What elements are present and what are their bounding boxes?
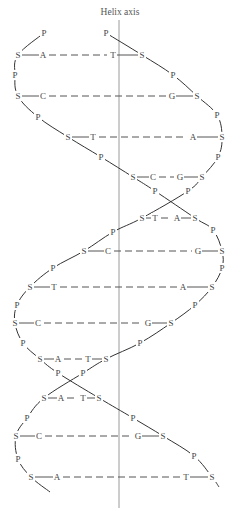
svg-text:P: P bbox=[14, 300, 19, 310]
sugar-label: S bbox=[218, 246, 226, 256]
guanine-label: G bbox=[176, 172, 184, 182]
svg-text:P: P bbox=[20, 338, 25, 348]
svg-text:P: P bbox=[103, 28, 108, 38]
svg-text:S: S bbox=[209, 472, 214, 482]
phosphate-label: P bbox=[13, 300, 21, 310]
svg-text:P: P bbox=[185, 186, 190, 196]
phosphate-label: P bbox=[214, 152, 222, 162]
svg-text:S: S bbox=[160, 431, 165, 441]
phosphate-label: P bbox=[213, 110, 221, 120]
phosphate-label: P bbox=[191, 300, 199, 310]
svg-text:C: C bbox=[150, 172, 156, 182]
sugar-label: S bbox=[95, 393, 103, 403]
svg-text:S: S bbox=[139, 50, 144, 60]
svg-text:P: P bbox=[170, 70, 175, 80]
thymine-label: T bbox=[79, 393, 87, 403]
sugar-label: S bbox=[218, 132, 226, 142]
svg-text:A: A bbox=[54, 472, 61, 482]
svg-text:A: A bbox=[40, 50, 47, 60]
sugar-label: S bbox=[208, 472, 216, 482]
adenine-label: A bbox=[53, 472, 61, 482]
svg-text:T: T bbox=[183, 472, 189, 482]
sugar-label: S bbox=[193, 91, 201, 101]
thymine-label: T bbox=[84, 354, 92, 364]
phosphate-label: P bbox=[97, 152, 105, 162]
thymine-label: T bbox=[151, 213, 159, 223]
svg-text:S: S bbox=[103, 354, 108, 364]
svg-text:P: P bbox=[152, 186, 157, 196]
svg-text:S: S bbox=[209, 282, 214, 292]
cytosine-label: C bbox=[149, 172, 157, 182]
phosphate-label: P bbox=[11, 70, 19, 80]
guanine-label: G bbox=[144, 318, 152, 328]
guanine-label: G bbox=[168, 91, 176, 101]
svg-text:T: T bbox=[85, 354, 91, 364]
svg-text:S: S bbox=[12, 318, 17, 328]
backbone-strand-2 bbox=[14, 33, 222, 487]
sugar-label: S bbox=[40, 393, 48, 403]
svg-text:A: A bbox=[174, 213, 181, 223]
cytosine-label: C bbox=[104, 246, 112, 256]
svg-text:C: C bbox=[36, 431, 42, 441]
svg-text:P: P bbox=[130, 413, 135, 423]
svg-text:T: T bbox=[51, 282, 57, 292]
helix-axis-label: Helix axis bbox=[101, 7, 140, 17]
svg-text:S: S bbox=[219, 132, 224, 142]
sugar-label: S bbox=[36, 354, 44, 364]
svg-text:S: S bbox=[139, 213, 144, 223]
sugar-label: S bbox=[64, 132, 72, 142]
svg-text:P: P bbox=[35, 112, 40, 122]
phosphate-label: P bbox=[136, 338, 144, 348]
svg-text:S: S bbox=[41, 393, 46, 403]
phosphate-label: P bbox=[151, 186, 159, 196]
guanine-label: G bbox=[134, 431, 142, 441]
thymine-label: T bbox=[182, 472, 190, 482]
svg-text:G: G bbox=[135, 431, 142, 441]
sugar-label: S bbox=[14, 50, 22, 60]
svg-text:S: S bbox=[81, 246, 86, 256]
svg-text:C: C bbox=[105, 246, 111, 256]
phosphate-label: P bbox=[190, 451, 198, 461]
phosphate-label: P bbox=[34, 112, 42, 122]
svg-text:S: S bbox=[15, 50, 20, 60]
phosphate-label: P bbox=[19, 338, 27, 348]
svg-text:P: P bbox=[191, 451, 196, 461]
guanine-label: G bbox=[194, 246, 202, 256]
phosphate-label: P bbox=[218, 263, 226, 273]
sugar-label: S bbox=[80, 246, 88, 256]
svg-text:P: P bbox=[137, 338, 142, 348]
svg-text:A: A bbox=[180, 282, 187, 292]
svg-text:P: P bbox=[192, 300, 197, 310]
adenine-label: A bbox=[189, 132, 197, 142]
svg-text:S: S bbox=[15, 91, 20, 101]
cytosine-label: C bbox=[39, 91, 47, 101]
svg-text:P: P bbox=[12, 70, 17, 80]
thymine-label: T bbox=[89, 132, 97, 142]
sugar-label: S bbox=[138, 213, 146, 223]
sugar-label: S bbox=[12, 431, 20, 441]
svg-text:A: A bbox=[190, 132, 197, 142]
phosphate-label: P bbox=[79, 368, 87, 378]
svg-text:S: S bbox=[28, 472, 33, 482]
sugar-label: S bbox=[198, 172, 206, 182]
sugar-label: S bbox=[27, 472, 35, 482]
sugar-label: S bbox=[138, 50, 146, 60]
cytosine-label: C bbox=[35, 431, 43, 441]
svg-text:P: P bbox=[98, 152, 103, 162]
svg-text:P: P bbox=[80, 368, 85, 378]
svg-text:T: T bbox=[90, 132, 96, 142]
svg-text:S: S bbox=[65, 132, 70, 142]
sugar-label: S bbox=[26, 282, 34, 292]
sugar-label: S bbox=[11, 318, 19, 328]
svg-text:P: P bbox=[15, 454, 20, 464]
svg-text:A: A bbox=[55, 354, 62, 364]
phosphate-label: P bbox=[49, 263, 57, 273]
sugar-label: S bbox=[14, 91, 22, 101]
phosphate-label: P bbox=[40, 28, 48, 38]
adenine-label: A bbox=[173, 213, 181, 223]
phosphate-label: P bbox=[169, 70, 177, 80]
sugar-label: S bbox=[167, 318, 175, 328]
svg-text:P: P bbox=[24, 413, 29, 423]
sugar-label: S bbox=[159, 431, 167, 441]
svg-text:G: G bbox=[145, 318, 152, 328]
